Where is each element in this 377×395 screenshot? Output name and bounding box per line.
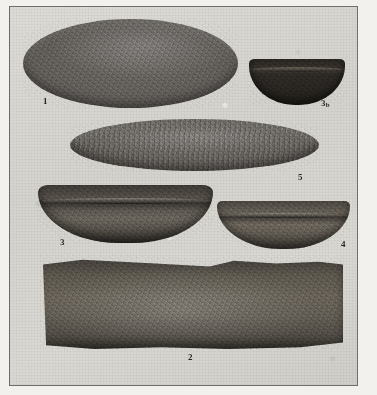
specimen-5 xyxy=(70,119,319,171)
figure-label-3b-text: 3 xyxy=(321,98,326,108)
figure-label-3b: 3b xyxy=(321,99,330,108)
specimen-field: 1 3b 5 3 4 2 xyxy=(10,7,357,385)
figure-label-2-text: 2 xyxy=(188,352,193,362)
specimen-3-rim xyxy=(42,198,210,204)
figure-label-3: 3 xyxy=(60,238,65,247)
specimen-3-body xyxy=(38,185,213,243)
specimen-1 xyxy=(23,19,238,108)
specimen-5-body xyxy=(70,119,319,171)
figure-label-4: 4 xyxy=(341,240,346,249)
specimen-4-rim xyxy=(220,213,348,218)
specimen-3b-body xyxy=(249,59,345,105)
specimen-4-body xyxy=(217,201,350,249)
specimen-3b-rim xyxy=(252,67,342,72)
figure-label-1: 1 xyxy=(43,97,48,106)
specimen-3 xyxy=(38,185,213,243)
specimen-2 xyxy=(40,255,343,350)
figure-label-5-text: 5 xyxy=(298,172,303,182)
figure-label-3-text: 3 xyxy=(60,237,65,247)
figure-label-4-text: 4 xyxy=(341,239,346,249)
specimen-1-body xyxy=(23,19,238,108)
figure-label-5: 5 xyxy=(298,173,303,182)
specimen-2-body xyxy=(40,255,343,350)
specimen-3b xyxy=(249,59,345,105)
figure-label-3b-subscript: b xyxy=(326,101,330,109)
figure-label-1-text: 1 xyxy=(43,96,48,106)
specimen-4 xyxy=(217,201,350,249)
figure-label-2: 2 xyxy=(188,353,193,362)
plate-page: 1 3b 5 3 4 2 xyxy=(0,0,377,395)
plate-frame: 1 3b 5 3 4 2 xyxy=(9,6,358,386)
